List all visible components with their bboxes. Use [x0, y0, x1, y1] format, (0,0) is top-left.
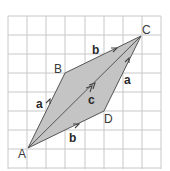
point-label-d: D	[104, 112, 113, 126]
vector-label-b-bottom: b	[69, 131, 76, 145]
vector-label-c: c	[88, 93, 95, 107]
point-label-b: B	[54, 62, 62, 76]
point-label-a: A	[18, 147, 26, 161]
point-label-c: C	[142, 23, 151, 37]
arrow-icon	[46, 99, 50, 104]
vector-label-a-right: a	[124, 73, 131, 87]
vector-label-b-top: b	[92, 43, 99, 57]
vector-diagram: A B C D a b a b c	[0, 0, 170, 171]
vector-label-a-left: a	[36, 97, 43, 111]
